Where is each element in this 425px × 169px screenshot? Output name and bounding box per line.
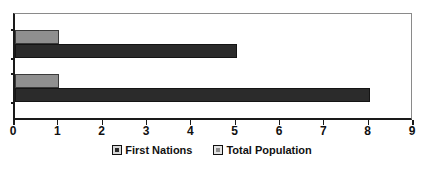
bar-total-population-group-2[interactable] bbox=[15, 74, 59, 88]
bar-chart: 0123456789 First Nations Total Populatio… bbox=[0, 0, 425, 169]
x-axis-tick-label: 5 bbox=[223, 124, 247, 138]
x-axis-tick-label: 4 bbox=[178, 124, 202, 138]
bar-first-nations-group-1[interactable] bbox=[15, 44, 237, 58]
legend-swatch-icon bbox=[214, 146, 222, 154]
category-tick bbox=[11, 58, 15, 60]
x-axis-tick-label: 2 bbox=[90, 124, 114, 138]
x-axis-labels: 0123456789 bbox=[0, 124, 425, 140]
x-axis-tick-label: 8 bbox=[356, 124, 380, 138]
legend-item-label: First Nations bbox=[125, 144, 192, 156]
x-axis-tick-label: 1 bbox=[45, 124, 69, 138]
x-axis-tick-label: 9 bbox=[400, 124, 424, 138]
legend-swatch-icon bbox=[113, 146, 121, 154]
x-axis-tick-label: 7 bbox=[311, 124, 335, 138]
bar-total-population-group-1[interactable] bbox=[15, 30, 59, 44]
legend-item-total-population[interactable]: Total Population bbox=[214, 144, 311, 156]
x-axis-tick-label: 0 bbox=[1, 124, 25, 138]
chart-legend: First Nations Total Population bbox=[0, 142, 425, 158]
legend-item-first-nations[interactable]: First Nations bbox=[113, 144, 192, 156]
bar-first-nations-group-2[interactable] bbox=[15, 88, 370, 102]
category-tick bbox=[11, 102, 15, 104]
x-axis-tick-label: 6 bbox=[267, 124, 291, 138]
legend-item-label: Total Population bbox=[226, 144, 311, 156]
plot-area bbox=[13, 13, 412, 120]
x-axis-tick-label: 3 bbox=[134, 124, 158, 138]
